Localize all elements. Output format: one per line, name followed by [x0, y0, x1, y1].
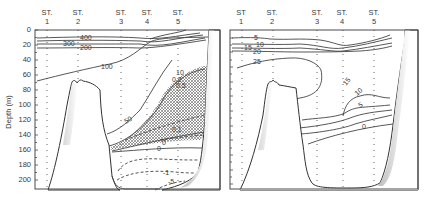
station-label: ST.	[42, 8, 53, 17]
station-number: 2	[270, 17, 274, 26]
y-tick-label: 120	[18, 115, 31, 124]
station-label: ST.	[116, 8, 127, 17]
station-number: 1	[45, 17, 49, 26]
contour-label: 20	[253, 48, 261, 55]
y-tick-label: 60	[23, 70, 31, 79]
station-number: 2	[76, 17, 80, 26]
left-panel: Depth (m) 0 20 40 60 80 100 120 140 160 …	[4, 8, 220, 190]
station-number: 5	[372, 17, 376, 26]
contour-label: 0	[162, 139, 166, 146]
y-tick-label: 20	[23, 40, 31, 49]
contour-label: 0.5	[176, 82, 186, 89]
contour-label: 15	[244, 44, 252, 51]
contour-label: -1	[163, 169, 169, 176]
y-tick-label: 180	[18, 160, 31, 169]
y-tick-label: 0	[27, 25, 31, 34]
station-label: ST.	[173, 8, 184, 17]
station-label: ST.	[142, 8, 153, 17]
station-label: ST.	[267, 8, 278, 17]
contour-label: 15	[341, 76, 351, 87]
depth-section-chart: Depth (m) 0 20 40 60 80 100 120 140 160 …	[0, 0, 427, 197]
contour-label: 100	[101, 63, 113, 70]
contour-label: 10	[176, 69, 184, 76]
contour-label: 400	[80, 34, 92, 41]
station-headers: ST. 1 ST. 2 ST. 3 ST. 4 ST. 5	[42, 8, 184, 26]
y-tick-label: 140	[18, 130, 31, 139]
y-tick-label: 80	[23, 85, 31, 94]
station-label: ST	[236, 8, 246, 17]
station-label: ST.	[312, 8, 323, 17]
y-tick-label: 40	[23, 55, 31, 64]
station-label: ST.	[73, 8, 84, 17]
y-axis-label: Depth (m)	[4, 95, 13, 129]
station-label: ST.	[337, 8, 348, 17]
contour-label: 50	[123, 115, 133, 125]
contour-label: 5	[254, 34, 258, 41]
y-tick-label: 100	[18, 100, 31, 109]
y-tick-label: 200	[18, 175, 31, 184]
station-number: 4	[340, 17, 344, 26]
contour-label: 10	[256, 41, 264, 48]
contour-label: 0.1	[172, 126, 182, 133]
contour-label: 25	[253, 58, 261, 65]
station-number: 3	[119, 17, 123, 26]
station-headers: ST 1 ST. 2 ST. 3 ST. 4 ST. 5	[236, 8, 379, 26]
station-number: 4	[145, 17, 149, 26]
contour-label: 0	[157, 145, 161, 152]
y-tick-label: 160	[18, 145, 31, 154]
contour-label: 0	[362, 123, 366, 130]
station-number: 1	[239, 17, 243, 26]
station-label: ST.	[369, 8, 380, 17]
contour-label: 300	[63, 40, 75, 47]
right-panel: ST 1 ST. 2 ST. 3 ST. 4 ST. 5	[230, 8, 418, 190]
station-number: 5	[176, 17, 180, 26]
contour-label: -5	[168, 178, 174, 185]
contour-label: 200	[80, 44, 92, 51]
station-number: 3	[315, 17, 319, 26]
